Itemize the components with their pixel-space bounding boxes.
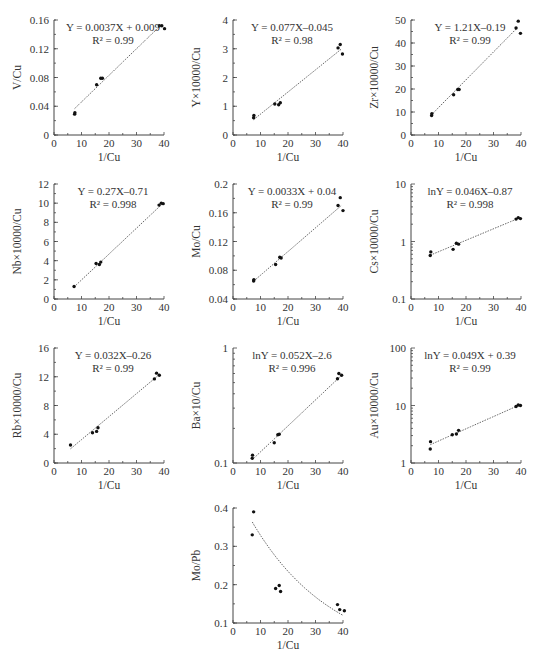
y-tick-label: 12 bbox=[38, 178, 49, 190]
rb-cu-svg: 01020304004812161/CuRb×10000/CuY = 0.032… bbox=[4, 334, 184, 498]
x-tick-label: 30 bbox=[131, 137, 143, 149]
r-squared: R² = 0.998 bbox=[89, 198, 137, 210]
chart-mo-cu: 0102030400.040.080.120.160.21/CuMo/CuY =… bbox=[183, 170, 363, 334]
data-point bbox=[101, 77, 104, 80]
r-squared: R² = 0.99 bbox=[271, 198, 313, 210]
y-tick-label: 0.3 bbox=[214, 540, 228, 552]
y-tick-label: 10 bbox=[395, 178, 407, 190]
chart-v-cu: 01020304000.040.080.120.161/CuV/CuY = 0.… bbox=[4, 6, 184, 170]
ba-cu-svg: 0102030400.111/CuBa×10/CulnY = 0.052X–2.… bbox=[183, 334, 363, 498]
x-tick-label: 0 bbox=[408, 301, 414, 313]
data-point bbox=[429, 250, 432, 253]
data-point bbox=[338, 608, 341, 611]
data-point bbox=[273, 102, 276, 105]
x-tick-label: 20 bbox=[461, 465, 473, 477]
y-tick-label: 30 bbox=[395, 60, 407, 72]
r-squared: R² = 0.99 bbox=[449, 34, 491, 46]
x-axis-label: 1/Cu bbox=[277, 151, 300, 163]
y-tick-label: 3 bbox=[223, 43, 229, 55]
x-axis-label: 1/Cu bbox=[277, 315, 300, 327]
fit-line bbox=[74, 204, 163, 287]
x-tick-label: 40 bbox=[516, 465, 528, 477]
y-tick-label: 0.1 bbox=[214, 457, 228, 469]
chart-au-cu: 0102030401101001/CuAu×10000/CulnY = 0.04… bbox=[361, 334, 541, 498]
y-axis-label: V/Cu bbox=[11, 65, 23, 90]
y-tick-label: 0.04 bbox=[209, 293, 229, 305]
data-point bbox=[252, 278, 255, 281]
data-point bbox=[341, 209, 344, 212]
x-tick-label: 0 bbox=[51, 465, 57, 477]
x-tick-label: 0 bbox=[51, 301, 57, 313]
x-tick-label: 30 bbox=[488, 301, 500, 313]
data-point bbox=[251, 457, 254, 460]
mo-pb-svg: 0102030400.10.20.30.41/CuMo/Pb bbox=[183, 494, 363, 656]
data-point bbox=[429, 447, 432, 450]
data-point bbox=[252, 114, 255, 117]
figure-grid: 01020304000.040.080.120.161/CuV/CuY = 0.… bbox=[0, 0, 544, 656]
y-tick-label: 1 bbox=[401, 236, 407, 248]
fit-line bbox=[430, 405, 519, 445]
y-tick-label: 2 bbox=[44, 274, 50, 286]
y-tick-label: 0.16 bbox=[30, 14, 50, 26]
data-point bbox=[279, 101, 282, 104]
data-point bbox=[99, 260, 102, 263]
x-axis-label: 1/Cu bbox=[455, 315, 478, 327]
x-tick-label: 10 bbox=[255, 625, 267, 637]
data-point bbox=[274, 587, 277, 590]
y-axis-label: Mo/Pb bbox=[190, 550, 202, 582]
data-point bbox=[95, 83, 98, 86]
y-tick-label: 50 bbox=[395, 14, 407, 26]
chart-cs-cu: 0102030400.11101/CuCs×10000/CulnY = 0.04… bbox=[361, 170, 541, 334]
x-tick-label: 10 bbox=[433, 137, 445, 149]
data-point bbox=[455, 432, 458, 435]
data-point bbox=[514, 26, 517, 29]
fit-line bbox=[71, 374, 160, 449]
x-axis-label: 1/Cu bbox=[277, 639, 300, 651]
nb-cu-svg: 0102030400246810121/CuNb×10000/CuY = 0.2… bbox=[4, 170, 184, 334]
r-squared: R² = 0.996 bbox=[268, 362, 316, 374]
chart-rb-cu: 01020304004812161/CuRb×10000/CuY = 0.032… bbox=[4, 334, 184, 498]
chart-y-cu: 010203040012341/CuY×10000/CuY = 0.077X–0… bbox=[183, 6, 363, 170]
x-axis-label: 1/Cu bbox=[98, 479, 121, 491]
regression-equation: lnY = 0.049X + 0.39 bbox=[424, 349, 516, 361]
mo-cu-svg: 0102030400.040.080.120.160.21/CuMo/CuY =… bbox=[183, 170, 363, 334]
x-tick-label: 30 bbox=[131, 465, 143, 477]
y-axis-label: Y×10000/Cu bbox=[190, 47, 202, 107]
x-tick-label: 20 bbox=[104, 301, 116, 313]
au-cu-svg: 0102030401101001/CuAu×10000/CulnY = 0.04… bbox=[361, 334, 541, 498]
x-tick-label: 10 bbox=[255, 137, 267, 149]
data-point bbox=[73, 111, 76, 114]
y-tick-label: 0.2 bbox=[214, 579, 228, 591]
data-point bbox=[517, 19, 520, 22]
data-point bbox=[163, 27, 166, 30]
x-tick-label: 40 bbox=[516, 137, 528, 149]
y-tick-label: 2 bbox=[223, 72, 229, 84]
r-squared: R² = 0.99 bbox=[92, 362, 134, 374]
y-axis-label: Rb×10000/Cu bbox=[11, 373, 23, 439]
data-point bbox=[252, 510, 255, 513]
data-point bbox=[429, 254, 432, 257]
chart-nb-cu: 0102030400246810121/CuNb×10000/CuY = 0.2… bbox=[4, 170, 184, 334]
x-tick-label: 20 bbox=[104, 137, 116, 149]
x-axis-label: 1/Cu bbox=[455, 151, 478, 163]
data-point bbox=[336, 204, 339, 207]
x-tick-label: 40 bbox=[159, 137, 171, 149]
regression-equation: lnY = 0.046X–0.87 bbox=[427, 185, 513, 197]
data-point bbox=[69, 443, 72, 446]
x-tick-label: 10 bbox=[255, 465, 267, 477]
y-tick-label: 4 bbox=[223, 14, 229, 26]
data-point bbox=[452, 93, 455, 96]
fit-line bbox=[254, 205, 342, 281]
r-squared: R² = 0.99 bbox=[92, 34, 134, 46]
y-tick-label: 1 bbox=[223, 100, 229, 112]
data-point bbox=[279, 590, 282, 593]
x-tick-label: 20 bbox=[283, 465, 295, 477]
y-axis-label: Nb×10000/Cu bbox=[11, 208, 23, 274]
x-tick-label: 40 bbox=[338, 137, 350, 149]
data-point bbox=[274, 263, 277, 266]
data-point bbox=[519, 32, 522, 35]
x-tick-label: 20 bbox=[461, 137, 473, 149]
x-tick-label: 10 bbox=[433, 465, 445, 477]
chart-ba-cu: 0102030400.111/CuBa×10/CulnY = 0.052X–2.… bbox=[183, 334, 363, 498]
y-tick-label: 100 bbox=[390, 342, 407, 354]
